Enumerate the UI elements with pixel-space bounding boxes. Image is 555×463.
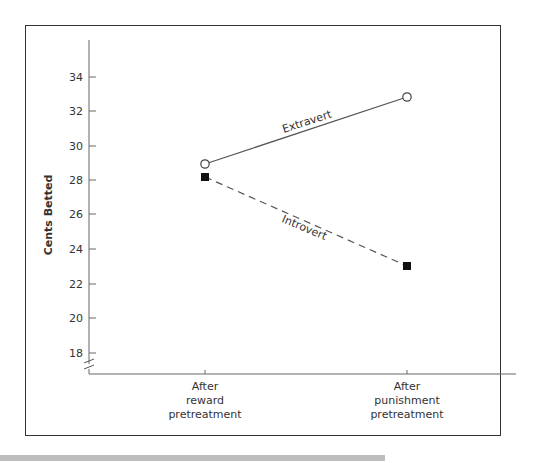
y-tick-label: 24 xyxy=(69,243,83,256)
y-tick-labels: 34 32 30 28 26 24 22 20 18 xyxy=(69,71,83,360)
introvert-label: Introvert xyxy=(280,212,330,243)
x-label-line: reward xyxy=(186,394,224,407)
x-label-line: After xyxy=(394,380,421,393)
x-label-line: pretreatment xyxy=(370,408,444,421)
introvert-point-reward xyxy=(201,173,209,181)
y-tick-label: 28 xyxy=(69,174,83,187)
y-tick-label: 20 xyxy=(69,312,83,325)
y-ticks xyxy=(89,77,96,353)
extravert-line xyxy=(205,97,407,164)
y-tick-label: 22 xyxy=(69,278,83,291)
x-label-line: punishment xyxy=(374,394,440,407)
line-chart: 34 32 30 28 26 24 22 20 18 Cents Betted … xyxy=(0,0,555,463)
y-tick-label: 18 xyxy=(69,347,83,360)
y-axis-title: Cents Betted xyxy=(42,175,55,256)
introvert-point-punishment xyxy=(403,262,411,270)
x-category-labels: After reward pretreatment After punishme… xyxy=(168,380,444,421)
y-tick-label: 26 xyxy=(69,208,83,221)
y-tick-label: 30 xyxy=(69,140,83,153)
x-label-line: After xyxy=(192,380,219,393)
y-tick-label: 34 xyxy=(69,71,83,84)
bottom-rule xyxy=(0,455,385,461)
y-tick-label: 32 xyxy=(69,105,83,118)
extravert-point-punishment xyxy=(403,93,411,101)
extravert-label: Extravert xyxy=(281,107,334,135)
x-label-line: pretreatment xyxy=(168,408,242,421)
extravert-point-reward xyxy=(201,160,209,168)
